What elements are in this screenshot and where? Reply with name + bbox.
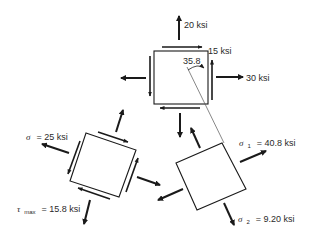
sigma-y-label: 20 ksi bbox=[184, 20, 208, 30]
normal-left-arrow-icon bbox=[42, 144, 69, 153]
tau-xy-label: 15 ksi bbox=[208, 46, 232, 56]
sigma2-label: σ 2 = 9.20 ksi bbox=[238, 208, 295, 227]
normal-stress-label: σ = 25 ksi bbox=[26, 126, 68, 143]
normal-right-arrow-icon bbox=[137, 177, 160, 185]
shear-right-arrow-icon bbox=[126, 158, 138, 192]
stress-transformation-diagram: 20 ksi 15 ksi 30 ksi 35.8 σ = 25 ksi τ m… bbox=[0, 0, 309, 240]
angle-label: 35.8 bbox=[183, 56, 201, 66]
max-shear-label: τ max = 15.8 ksi bbox=[17, 198, 80, 217]
angle-arc-icon bbox=[188, 66, 204, 70]
principal-stress-element: σ 1 = 40.8 ksi σ 2 = 9.20 ksi bbox=[158, 128, 296, 227]
sigma2-up-arrow-icon bbox=[191, 128, 200, 148]
max-shear-stress-element: σ = 25 ksi τ max = 15.8 ksi bbox=[17, 110, 160, 224]
sigma1-right-arrow-icon bbox=[240, 151, 266, 162]
original-stress-element: 20 ksi 15 ksi 30 ksi 35.8 bbox=[121, 16, 270, 143]
normal-down-arrow-icon bbox=[84, 200, 90, 224]
sigma1-left-arrow-icon bbox=[158, 189, 183, 200]
shear-bottom-arrow-icon bbox=[78, 188, 110, 199]
sigma2-down-arrow-icon bbox=[224, 203, 234, 225]
shear-top-arrow-icon bbox=[98, 132, 128, 142]
sigma1-label: σ 1 = 40.8 ksi bbox=[239, 132, 296, 151]
sigma-x-label: 30 ksi bbox=[246, 73, 270, 83]
element-square bbox=[176, 143, 246, 210]
normal-up-arrow-icon bbox=[116, 110, 123, 132]
